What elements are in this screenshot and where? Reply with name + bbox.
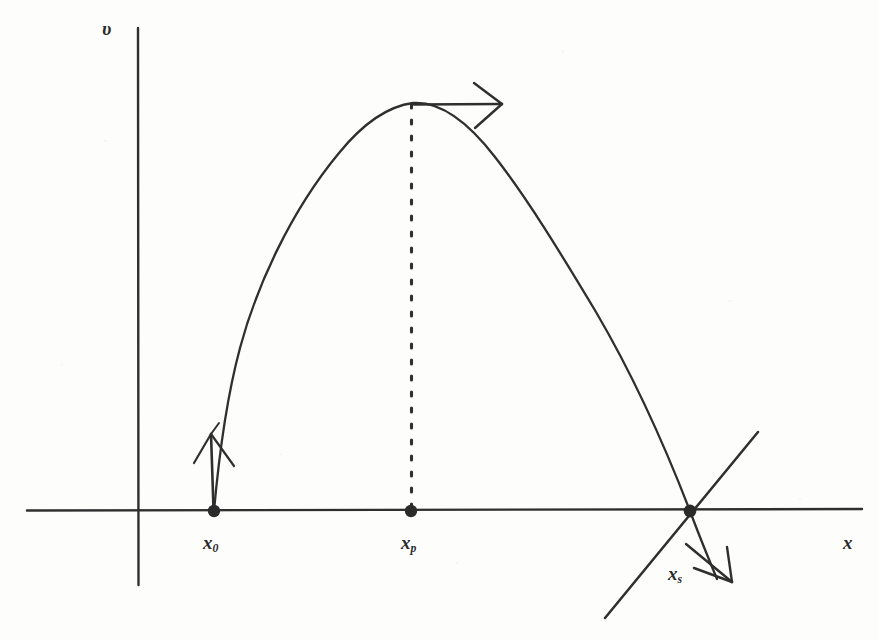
peak-point-label-base: x [401,532,411,553]
launch-point-label-sub: 0 [213,542,219,555]
peak-point-dot [405,505,417,517]
landing-point-label-sub: s [678,573,683,586]
launch-point-label-base: x [203,532,213,553]
launch-point-dot [208,505,220,517]
launch-point-label: x0 [203,532,218,556]
apex-velocity-arrow [414,83,502,128]
peak-point-label: xp [401,532,416,556]
landing-point-label: xs [668,563,682,587]
x-axis-line [27,509,862,511]
peak-point-label-sub: p [411,542,417,555]
landing-velocity-arrow [686,544,732,582]
oblique-crossing-line [605,432,758,618]
figure-canvas: υ x x0 xp xs [0,0,879,640]
landing-point-dot [684,505,697,518]
trajectory-diagram-svg [0,0,879,640]
y-axis-line [138,28,139,585]
y-axis-label: υ [102,18,111,40]
landing-point-label-base: x [668,563,678,584]
trajectory-curve [214,103,717,579]
launch-velocity-arrow [194,423,234,509]
x-axis-label: x [843,532,853,554]
